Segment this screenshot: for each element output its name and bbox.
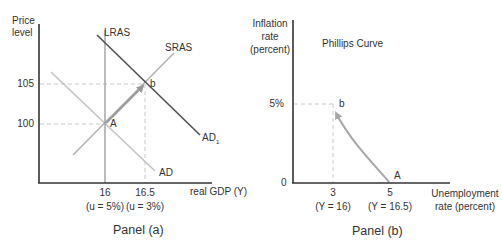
sub-3: (Y = 16) <box>311 201 355 213</box>
tick-5pct: 5% <box>264 98 284 110</box>
panel-a-y-title-line2: level <box>12 27 33 39</box>
tick-0: 0 <box>281 177 287 189</box>
panel-b-y-title-line1: Inflation <box>250 18 290 30</box>
tick-16: 16 <box>95 187 115 199</box>
phillips-curve-arrow <box>336 113 389 182</box>
panel-b-x-title-line2: rate (percent) <box>428 201 502 213</box>
point-a-label-b: A <box>394 170 401 182</box>
point-b-label-a: b <box>150 78 156 90</box>
panel-b-caption: Panel (b) <box>352 225 403 237</box>
tick-5: 5 <box>380 187 400 199</box>
point-a-label-a: A <box>110 118 117 130</box>
panel-a-y-title-line1: Price <box>12 15 35 27</box>
lras-label: LRAS <box>104 27 130 39</box>
panel-b-y-title-line3: (percent) <box>250 44 290 56</box>
tick-16-5: 16.5 <box>133 187 157 199</box>
panel-b-x-title-line1: Unemployment <box>428 188 502 200</box>
sub-16: (u = 5%) <box>85 201 125 213</box>
ad-label: AD <box>159 167 173 179</box>
ad1-label: AD1 <box>202 132 219 148</box>
point-b-label-b: b <box>339 98 345 110</box>
phillips-curve-title: Phillips Curve <box>322 38 383 50</box>
panel-a-x-title: real GDP (Y) <box>190 186 247 198</box>
sub-16-5: (u = 3%) <box>125 201 165 213</box>
panel-b-y-title-line2: rate <box>250 31 290 43</box>
tick-3: 3 <box>323 187 343 199</box>
tick-100: 100 <box>12 118 34 130</box>
panel-a-caption: Panel (a) <box>113 224 164 236</box>
sras-label: SRAS <box>165 42 192 54</box>
tick-105: 105 <box>12 78 34 90</box>
sub-5: (Y = 16.5) <box>365 201 415 213</box>
